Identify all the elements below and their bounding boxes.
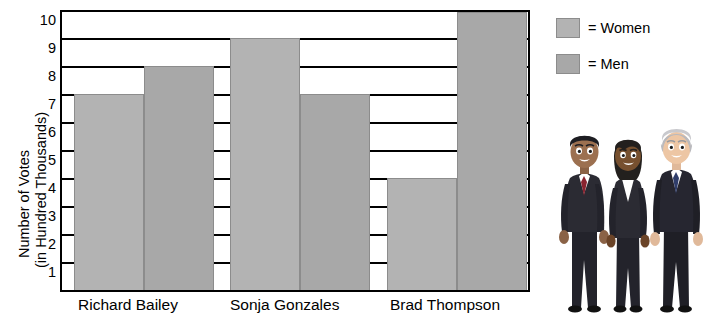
three-candidates-illustration <box>548 120 716 315</box>
chart-page: Number of Votes (in Hundred Thousands) 1… <box>0 0 719 325</box>
legend-label-men: = Men <box>588 56 629 72</box>
bar-richard-bailey-women <box>74 94 144 290</box>
candidate-man-right <box>650 129 703 313</box>
y-tick-5: 5 <box>48 152 56 168</box>
y-tick-10: 10 <box>40 12 56 28</box>
men-swatch-icon <box>556 54 580 74</box>
candidate-man-left <box>559 136 609 313</box>
y-tick-7: 7 <box>48 96 56 112</box>
y-axis-title: Number of Votes (in Hundred Thousands) <box>2 60 32 260</box>
legend: = Women = Men <box>556 18 706 90</box>
y-tick-6: 6 <box>48 124 56 140</box>
x-axis-tick-labels: Richard Bailey Sonja Gonzales Brad Thomp… <box>60 296 530 320</box>
y-tick-2: 2 <box>48 236 56 252</box>
y-axis-tick-labels: 10 9 8 7 6 5 4 3 2 1 <box>36 10 56 300</box>
plot-area <box>60 10 530 292</box>
y-tick-1: 1 <box>48 264 56 280</box>
bar-brad-thompson-men <box>457 12 527 290</box>
x-label-brad-thompson: Brad Thompson <box>390 296 500 314</box>
y-tick-4: 4 <box>48 180 56 196</box>
y-tick-8: 8 <box>48 68 56 84</box>
bar-sonja-gonzales-men <box>300 94 370 290</box>
y-tick-9: 9 <box>48 40 56 56</box>
legend-item-men: = Men <box>556 54 706 74</box>
x-label-sonja-gonzales: Sonja Gonzales <box>230 296 339 314</box>
candidate-woman-center <box>606 140 649 313</box>
x-label-richard-bailey: Richard Bailey <box>78 296 178 314</box>
y-tick-3: 3 <box>48 208 56 224</box>
legend-item-women: = Women <box>556 18 706 38</box>
bar-richard-bailey-men <box>144 66 214 290</box>
bar-sonja-gonzales-women <box>230 38 300 290</box>
women-swatch-icon <box>556 18 580 38</box>
bar-brad-thompson-women <box>387 178 457 290</box>
legend-label-women: = Women <box>588 20 650 36</box>
bars-layer <box>62 12 528 290</box>
y-axis-title-line-1: Number of Votes <box>16 150 32 258</box>
